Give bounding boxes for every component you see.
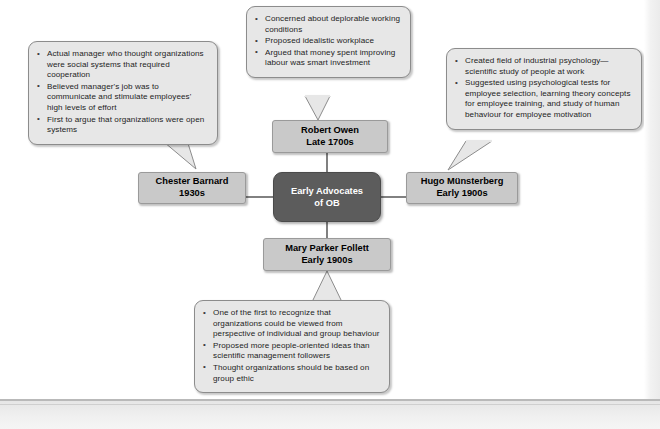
center-title-line2: of OB [314,197,339,209]
node-period: Early 1900s [301,255,352,267]
callout-bullet-list: Actual manager who thought organizations… [36,49,208,136]
callout-tail-munster [448,141,492,170]
page-bottom-shading [0,401,660,429]
callout-bullet-list: Concerned about deplorable working condi… [254,14,401,69]
node-robert-owen: Robert Owen Late 1700s [272,120,388,153]
callout-bullet: First to argue that organizations were o… [36,115,208,136]
callout-bullet: Thought organizations should be based on… [202,363,380,384]
callout-bullet: Argued that money spent improving labour… [254,48,401,69]
node-name: Robert Owen [301,125,359,137]
node-mary-parker-follett: Mary Parker Follett Early 1900s [263,238,391,271]
node-name: Mary Parker Follett [285,243,369,255]
page-bottom-hairline [0,404,660,405]
callout-bullet: Suggested using psychological tests for … [454,78,632,120]
callout-bullet-list: One of the first to recognize that organ… [202,308,380,384]
center-title-line1: Early Advocates [291,185,363,197]
node-period: Early 1900s [436,188,487,200]
node-period: 1930s [179,188,205,200]
callout-bullet: Concerned about deplorable working condi… [254,14,401,35]
callout-bullet: Proposed idealistic workplace [254,36,401,47]
callout-bullet: Proposed more people-oriented ideas than… [202,341,380,362]
diagram-page: Concerned about deplorable working condi… [0,0,660,429]
callout-bullet-list: Created field of industrial psychology—s… [454,56,632,121]
callout-hugo-munsterberg: Created field of industrial psychology—s… [446,48,642,130]
callout-robert-owen: Concerned about deplorable working condi… [246,6,411,78]
callout-chester-barnard: Actual manager who thought organizations… [28,41,218,145]
callout-tail-follett [312,271,342,302]
node-name: Hugo Münsterberg [421,176,504,188]
callout-bullet: Actual manager who thought organizations… [36,49,208,81]
callout-mary-parker-follett: One of the first to recognize that organ… [194,300,390,393]
page-right-margin [644,0,660,404]
callout-bullet: Believed manager's job was to communicat… [36,82,208,114]
node-period: Late 1700s [306,137,354,149]
callout-bullet: Created field of industrial psychology—s… [454,56,632,77]
node-hugo-munsterberg: Hugo Münsterberg Early 1900s [406,172,518,204]
node-center-early-advocates-of-ob: Early Advocates of OB [273,172,381,222]
callout-tail-owen [305,96,330,120]
node-chester-barnard: Chester Barnard 1930s [138,172,246,204]
callout-bullet: One of the first to recognize that organ… [202,308,380,340]
node-name: Chester Barnard [156,176,229,188]
